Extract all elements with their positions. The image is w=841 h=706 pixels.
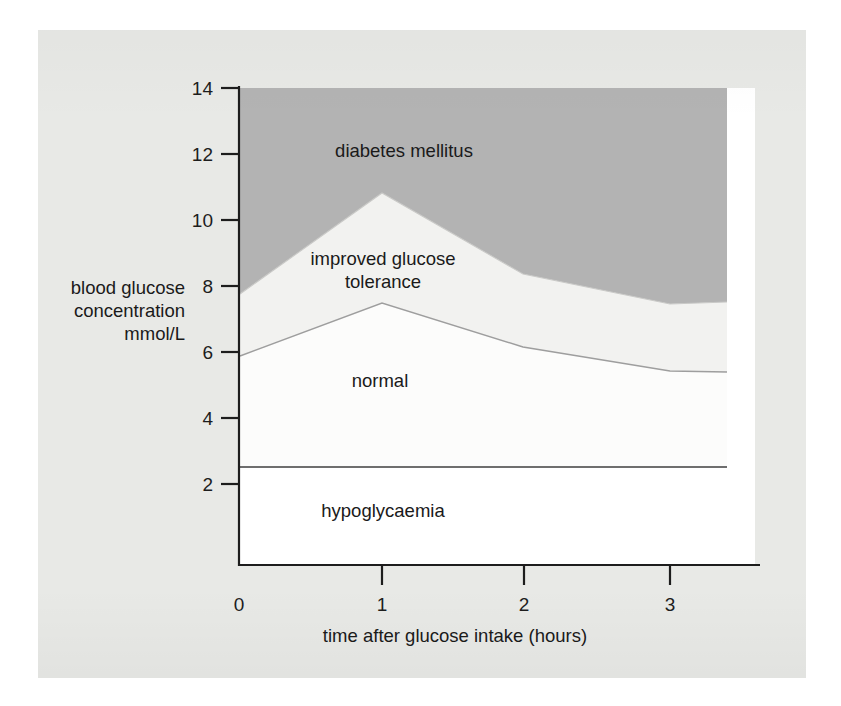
y-tick-label-2: 2 [202,474,213,495]
band-label-hypoglycaemia: hypoglycaemia [321,500,445,521]
x-tick-label-0: 0 [234,594,245,615]
plot-right-margin [727,88,755,565]
figure-root: 14 12 10 8 6 4 2 0 1 2 3 time after gluc… [0,0,841,706]
y-tick-label-4: 4 [202,408,213,429]
glucose-tolerance-chart: 14 12 10 8 6 4 2 0 1 2 3 time after gluc… [0,0,841,706]
y-axis-title-line-1: blood glucose [71,277,185,298]
x-axis-ticks [382,565,670,585]
y-tick-label-12: 12 [192,144,213,165]
y-axis-title-line-3: mmol/L [124,323,185,344]
x-tick-label-3: 3 [665,594,676,615]
y-tick-label-10: 10 [192,210,213,231]
y-axis-title-line-2: concentration [74,300,185,321]
x-tick-label-2: 2 [519,594,530,615]
band-label-diabetes-mellitus: diabetes mellitus [335,140,473,161]
y-tick-label-14: 14 [192,78,214,99]
x-tick-label-1: 1 [377,594,388,615]
y-tick-label-8: 8 [202,276,213,297]
x-axis-title: time after glucose intake (hours) [323,625,587,646]
area-hypoglycaemia [240,467,727,565]
band-label-tolerance: tolerance [345,271,421,292]
band-label-normal: normal [352,370,409,391]
y-tick-label-6: 6 [202,342,213,363]
y-axis-ticks [221,88,239,484]
band-label-improved-glucose: improved glucose [311,248,456,269]
